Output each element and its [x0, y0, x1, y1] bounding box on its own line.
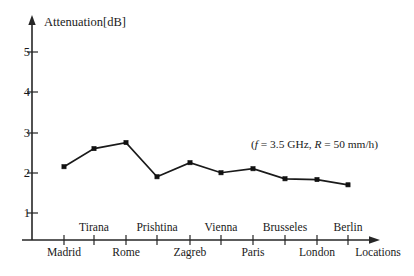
x-tick-label-zagreb: Zagreb — [174, 247, 207, 259]
x-tick-label-madrid: Madrid — [47, 247, 81, 259]
y-axis-title: Attenuation[dB] — [44, 16, 126, 29]
data-point-london — [315, 177, 319, 181]
data-point-berlin — [346, 183, 350, 187]
chart-annotation: (f = 3.5 GHz, R = 50 mm/h) — [251, 139, 378, 150]
x-tick-label-london: London — [299, 247, 335, 259]
y-axis-arrowhead — [28, 15, 35, 25]
data-point-paris — [251, 167, 255, 171]
attenuation-line-chart: Attenuation[dB] 5 4 3 2 1 Tirana Prishti… — [0, 0, 414, 276]
x-axis-title: Locations — [355, 247, 401, 259]
data-point-madrid — [62, 165, 66, 169]
y-tick-label-5: 5 — [8, 46, 30, 59]
data-point-brusseles — [283, 177, 287, 181]
data-point-tirana — [92, 147, 96, 151]
data-point-prishtina — [155, 175, 159, 179]
x-tick-label-prishtina: Prishtina — [136, 222, 177, 234]
data-point-rome — [124, 140, 128, 144]
x-tick-label-tirana: Tirana — [79, 222, 109, 234]
x-tick-label-vienna: Vienna — [205, 222, 238, 234]
x-tick-label-paris: Paris — [241, 247, 264, 259]
data-point-zagreb — [188, 161, 192, 165]
x-tick-label-berlin: Berlin — [334, 222, 363, 234]
y-tick-label-1: 1 — [8, 207, 30, 220]
x-tick-label-rome: Rome — [112, 247, 140, 259]
annotation-frequency-value: = 3.5 GHz, — [258, 138, 314, 150]
x-axis-arrowhead — [369, 236, 380, 244]
y-tick-label-3: 3 — [8, 127, 30, 140]
y-tick-label-2: 2 — [8, 167, 30, 180]
annotation-rainrate-value: = 50 mm/h) — [321, 138, 378, 150]
data-point-vienna — [219, 171, 223, 175]
x-tick-label-brusseles: Brusseles — [263, 222, 307, 234]
y-tick-label-4: 4 — [8, 86, 30, 99]
